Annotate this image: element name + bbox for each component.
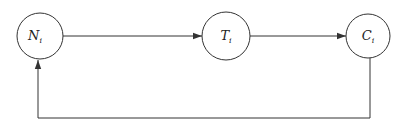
node-c: Ci [346, 14, 390, 58]
node-n: Ni [17, 13, 63, 59]
diagram-canvas: Ni Ti Ci [0, 0, 407, 130]
diagram-svg: Ni Ti Ci [0, 0, 407, 130]
node-t: Ti [202, 12, 250, 60]
edge-c-to-n-feedback [38, 58, 370, 118]
